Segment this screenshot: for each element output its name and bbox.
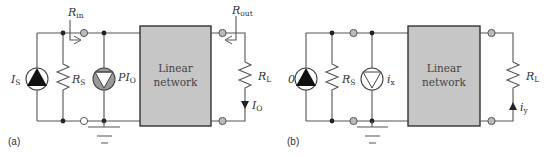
terminal-in-bottom [80,117,87,124]
ground-icon-a [88,127,120,143]
svg-text:RS: RS [71,73,85,87]
node [102,31,107,36]
ground-icon-b [357,121,388,143]
svg-text:ix: ix [387,73,396,87]
arrow-up-icon [509,102,517,110]
terminal-in-top [80,29,87,36]
terminal-out-top [219,29,226,36]
caption-b: (b) [287,136,299,147]
resistor-rs-a [57,33,69,121]
svg-text:IO: IO [251,99,263,113]
terminal-out-bottom [219,117,226,124]
svg-text:Linear: Linear [158,62,194,74]
resistor-rl-b [507,62,519,94]
svg-text:network: network [422,76,467,88]
zero-current-source [295,68,317,90]
test-source-ix [361,68,383,90]
caption-a: (a) [8,136,20,147]
svg-text:0: 0 [288,73,295,86]
current-source-is [26,68,48,90]
svg-text:Rout: Rout [231,4,253,18]
circuit-diagram: Rin IS RS PIO Linear network Rout RL IO … [0,0,550,157]
arrow-down-icon [241,101,249,109]
svg-text:iy: iy [520,101,529,115]
svg-text:Linear: Linear [427,62,463,74]
node [61,31,66,36]
resistor-rs-b [326,33,338,121]
resistor-rl-a [239,62,251,94]
svg-text:RL: RL [525,70,539,84]
svg-text:IS: IS [10,73,21,87]
node [61,119,66,124]
svg-text:RL: RL [257,70,271,84]
svg-text:Rin: Rin [67,6,84,20]
svg-text:PIO: PIO [117,71,136,85]
panel-b [295,26,519,143]
svg-text:network: network [154,76,199,88]
panel-a [26,16,251,143]
dependent-source-pio [93,68,115,90]
svg-text:RS: RS [341,73,355,87]
